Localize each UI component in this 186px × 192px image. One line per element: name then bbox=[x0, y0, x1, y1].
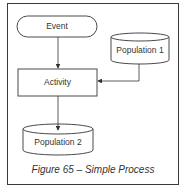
population2-node-label: Population 2 bbox=[23, 137, 93, 147]
edge-population1-activity bbox=[98, 64, 139, 81]
population1-node-label: Population 1 bbox=[111, 45, 169, 55]
figure-caption: Figure 65 – Simple Process bbox=[7, 164, 179, 175]
activity-node-label: Activity bbox=[18, 77, 97, 87]
event-node-label: Event bbox=[17, 21, 97, 31]
